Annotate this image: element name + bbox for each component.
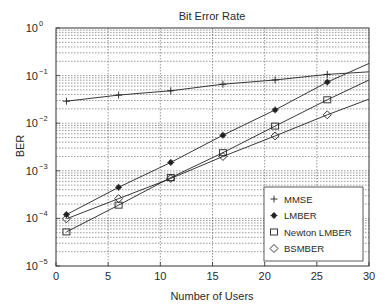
y-tick-label: 10	[26, 22, 38, 34]
y-tick-exponent: −4	[39, 209, 48, 218]
y-axis-label: BER	[14, 135, 26, 158]
series-mmse	[63, 71, 369, 105]
x-tick-label: 15	[206, 270, 218, 282]
y-tick-label: 10	[26, 70, 38, 82]
y-tick-label: 10	[26, 117, 38, 129]
x-tick-label: 5	[105, 270, 111, 282]
legend-label: LMBER	[284, 210, 317, 221]
y-tick-exponent: −5	[39, 257, 48, 266]
legend-label: MMSE	[284, 194, 313, 205]
y-tick-label: 10	[26, 260, 38, 272]
x-axis-ticks: 051015202530	[53, 262, 375, 282]
x-tick-label: 0	[53, 270, 59, 282]
ber-chart: 051015202530 10010−110−210−310−410−5 Bit…	[0, 0, 389, 308]
y-tick-exponent: −3	[39, 162, 48, 171]
y-tick-label: 10	[26, 212, 38, 224]
x-tick-label: 10	[154, 270, 166, 282]
y-tick-label: 10	[26, 165, 38, 177]
x-axis-label: Number of Users	[170, 290, 254, 302]
y-tick-exponent: 0	[39, 19, 43, 28]
x-tick-label: 20	[259, 270, 271, 282]
y-tick-exponent: −2	[39, 114, 48, 123]
y-tick-exponent: −1	[39, 67, 48, 76]
x-tick-label: 30	[363, 270, 375, 282]
legend: MMSELMBERNewton LMBERBSMBER	[264, 187, 363, 261]
legend-label: BSMBER	[284, 243, 324, 254]
y-axis-ticks: 10010−110−210−310−410−5	[26, 19, 60, 272]
chart-title: Bit Error Rate	[179, 10, 246, 22]
x-tick-label: 25	[311, 270, 323, 282]
legend-label: Newton LMBER	[284, 227, 352, 238]
